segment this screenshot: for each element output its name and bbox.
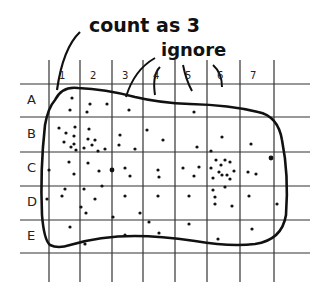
sample-dot (228, 160, 231, 163)
sample-dot (219, 163, 222, 166)
sample-dot (157, 231, 160, 234)
sample-dot (96, 149, 99, 152)
sample-dot (192, 110, 195, 113)
sample-dot (64, 131, 67, 134)
sample-dot (225, 173, 228, 176)
sample-dot (223, 185, 226, 188)
sample-dot (63, 187, 66, 190)
sample-dot (192, 174, 195, 177)
sample-dot (84, 211, 87, 214)
column-label-4: 4 (153, 70, 159, 81)
sample-dot (72, 172, 75, 175)
sample-dot (90, 143, 93, 146)
column-label-5: 5 (185, 70, 191, 81)
sample-dot (45, 197, 48, 200)
sample-dot (87, 127, 90, 130)
sample-dot (230, 204, 233, 207)
sample-dot (69, 145, 72, 148)
sample-dot (228, 177, 231, 180)
column-label-6: 6 (217, 70, 223, 81)
sample-dot (246, 170, 249, 173)
grid-lines (20, 60, 310, 282)
ignore-pointer-1 (126, 58, 155, 97)
sample-dot (111, 215, 114, 218)
sample-dot (249, 142, 252, 145)
sample-dot (187, 222, 190, 225)
sample-dot (79, 205, 82, 208)
sample-dot (195, 145, 198, 148)
sample-dot (213, 202, 216, 205)
sample-dot (70, 96, 73, 99)
column-label-7: 7 (250, 70, 256, 81)
sample-dot (161, 138, 164, 141)
sample-dot (138, 211, 141, 214)
sample-dot (123, 194, 126, 197)
sample-dot (103, 147, 106, 150)
sample-area-outline (41, 88, 286, 247)
sample-dot (181, 166, 184, 169)
row-label-D: D (27, 194, 37, 209)
sample-dot (213, 195, 216, 198)
row-label-C: C (27, 160, 36, 175)
column-label-3: 3 (122, 70, 128, 81)
sample-dot (247, 194, 250, 197)
count-as-3-pointer (57, 32, 80, 90)
sample-dot (216, 237, 219, 240)
sample-dot (86, 137, 89, 140)
sample-dot (128, 174, 131, 177)
sample-dot (67, 160, 70, 163)
sample-dot (217, 170, 220, 173)
sample-dot (156, 168, 159, 171)
sample-dot (214, 158, 217, 161)
sample-dot (100, 184, 103, 187)
sample-dot (72, 134, 75, 137)
sample-dot (133, 147, 136, 150)
column-label-2: 2 (90, 70, 96, 81)
sample-dot (211, 188, 214, 191)
sample-dot (250, 227, 253, 230)
sample-dot (82, 146, 85, 149)
sample-dot (123, 233, 126, 236)
sample-dot (93, 197, 96, 200)
sample-dot (88, 102, 91, 105)
sample-dot (86, 161, 89, 164)
sample-dot (157, 175, 160, 178)
sample-dot (197, 165, 200, 168)
sample-dot (93, 138, 96, 141)
sample-dot (147, 220, 150, 223)
sample-dot (110, 168, 115, 173)
sample-dot (220, 135, 223, 138)
sample-dot (187, 194, 190, 197)
sample-dot (209, 166, 212, 169)
sample-dot (72, 142, 75, 145)
sample-dot (269, 156, 274, 161)
sample-dot (211, 176, 214, 179)
sample-dot (117, 143, 120, 146)
row-label-A: A (27, 92, 36, 107)
sample-dot (85, 110, 88, 113)
sample-dot (145, 128, 148, 131)
sample-dot (62, 140, 65, 143)
sample-dot (68, 108, 71, 111)
sample-dot (223, 158, 226, 161)
sample-dot (232, 169, 235, 172)
sample-dot (275, 202, 278, 205)
sample-dot (74, 148, 77, 151)
sample-dot (57, 126, 60, 129)
sample-dot (73, 125, 76, 128)
sample-dot (254, 172, 257, 175)
sample-dot (123, 166, 126, 169)
ignore-label: ignore (161, 39, 226, 60)
sample-dot (47, 168, 50, 171)
sample-dot (82, 187, 85, 190)
count-as-3-label: count as 3 (89, 14, 200, 36)
sample-dot (105, 102, 108, 105)
sample-dot (220, 173, 223, 176)
sample-dot (118, 133, 121, 136)
sample-dot (60, 194, 63, 197)
column-label-1: 1 (59, 70, 65, 81)
sample-dot (156, 194, 159, 197)
sample-dot (83, 242, 86, 245)
row-label-E: E (27, 228, 35, 243)
sample-dot (68, 225, 71, 228)
